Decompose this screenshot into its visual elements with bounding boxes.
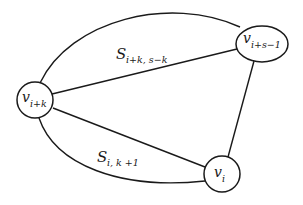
node-label: v <box>22 89 30 105</box>
node-label-subscript: i+k <box>30 98 47 109</box>
node-v-i-plus-s-minus-1: v i+s−1 <box>236 26 288 62</box>
region-label-subscript: i, k +1 <box>107 157 139 168</box>
node-v-i-plus-k: v i+k <box>17 82 53 118</box>
node-v-i: v i <box>204 156 240 192</box>
node-label: v <box>214 164 222 180</box>
region-label-bottom: S i, k +1 <box>97 148 139 168</box>
node-label: v <box>243 30 251 46</box>
graph-diagram: v i+k v i+s−1 v i S i+k, s−k S i, k +1 <box>0 0 303 205</box>
node-label-subscript: i <box>222 173 225 184</box>
edge-bottom-arc <box>39 118 205 183</box>
region-label-top: S i+k, s−k <box>116 45 168 65</box>
region-label-main: S <box>97 148 107 166</box>
region-label-subscript: i+k, s−k <box>126 54 168 65</box>
node-label-subscript: i+s−1 <box>251 39 281 50</box>
edge-vis1-vi <box>228 61 254 157</box>
region-label-main: S <box>116 45 126 63</box>
